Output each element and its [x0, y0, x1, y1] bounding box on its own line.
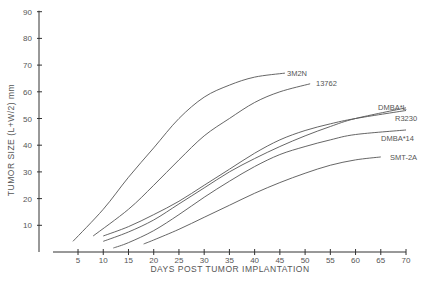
curve-r3230: [103, 110, 406, 235]
y-tick-label: 50: [23, 115, 32, 124]
y-tick-label: 60: [23, 88, 32, 97]
x-tick-label: 65: [376, 256, 385, 265]
x-tick-label: 5: [76, 256, 81, 265]
y-tick-label: 90: [23, 8, 32, 17]
tumor-growth-chart: 1020304050607080905101520253035404550556…: [0, 0, 426, 281]
series-label: SMT-2A: [390, 153, 417, 162]
y-tick-label: 20: [23, 195, 32, 204]
series-label: 13762: [316, 79, 337, 88]
series-label: R3230: [395, 114, 417, 123]
series-label: DMBA*14: [381, 134, 414, 143]
y-tick-label: 70: [23, 61, 32, 70]
curve-dmba-14: [113, 130, 406, 248]
growth-curves: [73, 73, 406, 248]
x-tick-label: 55: [326, 256, 335, 265]
curve-smt-2a: [144, 157, 381, 244]
series-labels: 3M2N13762DMBA*LR3230DMBA*14SMT-2A: [287, 69, 417, 162]
x-tick-label: 70: [402, 256, 411, 265]
x-tick-label: 60: [351, 256, 360, 265]
curve-3m2n: [73, 73, 285, 241]
y-tick-label: 30: [23, 168, 32, 177]
y-tick-label: 10: [23, 221, 32, 230]
x-tick-label: 10: [99, 256, 108, 265]
curve-dmba-l: [103, 108, 406, 242]
y-axis-title: TUMOR SIZE (L+W/2) mm: [6, 84, 16, 196]
y-tick-label: 80: [23, 34, 32, 43]
series-label: 3M2N: [287, 69, 307, 78]
curve-13762: [93, 84, 310, 236]
x-axis-title: DAYS POST TUMOR IMPLANTATION: [150, 264, 309, 274]
x-tick-label: 15: [124, 256, 133, 265]
series-label: DMBA*L: [378, 103, 407, 112]
axes: 1020304050607080905101520253035404550556…: [23, 8, 411, 265]
y-tick-label: 40: [23, 141, 32, 150]
